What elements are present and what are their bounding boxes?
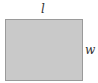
length-label: l xyxy=(41,3,45,15)
width-label: w xyxy=(85,44,95,56)
rectangle-shape xyxy=(5,19,83,81)
